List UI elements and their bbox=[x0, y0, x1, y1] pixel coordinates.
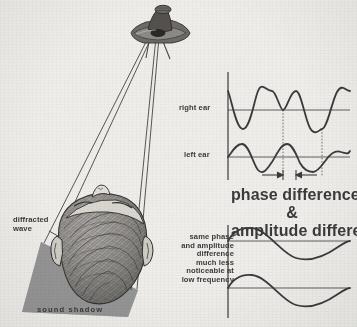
right-ear-label: right ear bbox=[179, 104, 210, 113]
left-ear-label: left ear bbox=[184, 151, 210, 160]
diffracted-wave-line1: diffracted bbox=[13, 215, 49, 224]
low-freq-line-5: low frequency bbox=[151, 276, 234, 285]
phase-difference-caption: phase difference & amplitude difference bbox=[231, 186, 353, 240]
wave-low-freq-lower bbox=[228, 275, 350, 307]
wave-right-ear bbox=[228, 87, 350, 133]
ampersand-text: & bbox=[231, 204, 353, 222]
amplitude-difference-text: amplitude difference bbox=[231, 222, 353, 240]
phase-difference-text: phase difference bbox=[231, 186, 353, 204]
loudspeaker-icon bbox=[131, 5, 190, 59]
low-frequency-caption: same phase and amplitude difference much… bbox=[151, 233, 234, 284]
diffracted-wave-label: diffracted wave bbox=[13, 216, 49, 233]
figure-canvas: right ear left ear diffracted wave sound… bbox=[0, 0, 357, 327]
sound-shadow-label: sound shadow bbox=[37, 306, 103, 315]
diffracted-wave-line2: wave bbox=[13, 225, 49, 234]
wave-left-ear bbox=[228, 144, 350, 172]
diffracted-wave-leader bbox=[49, 231, 58, 236]
